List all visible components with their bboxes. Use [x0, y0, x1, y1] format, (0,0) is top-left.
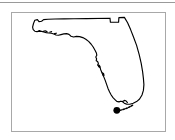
florida-keys-chain	[119, 105, 132, 110]
top-horizontal-rule	[0, 2, 175, 3]
florida-state-outline	[33, 17, 144, 104]
page-root	[0, 0, 175, 140]
florida-map	[12, 13, 165, 131]
location-marker	[113, 107, 120, 114]
figure-frame	[11, 12, 166, 132]
